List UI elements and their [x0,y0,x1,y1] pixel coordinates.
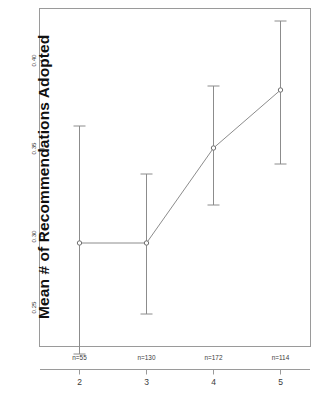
error-bar-group-2 [74,126,86,354]
y-axis-title: Mean # of Recommendations Adopted [35,39,53,319]
sample-size-annotations: n=55 n=130 n=172 n=114 [72,354,289,361]
x-tick-label-5: 5 [278,377,283,387]
n-label-group-4: n=172 [205,354,223,361]
n-label-group-5: n=114 [272,354,290,361]
data-point-2 [77,241,81,245]
data-series-line [80,90,281,243]
x-tick-label-2: 2 [77,377,82,387]
n-label-group-3: n=130 [138,354,156,361]
x-axis-ticks [80,370,281,375]
data-point-5 [278,88,282,92]
x-axis-tick-labels: 2 3 4 5 [77,377,283,387]
n-label-group-2: n=55 [72,354,87,361]
chart-figure: Mean # of Recommendations Adopted 0.40 0… [0,0,320,409]
x-tick-label-3: 3 [144,377,149,387]
data-point-3 [144,241,148,245]
x-tick-label-4: 4 [211,377,216,387]
data-point-4 [211,146,215,150]
data-point-markers [77,88,282,245]
error-bars [74,21,287,354]
plot-frame [40,9,311,347]
